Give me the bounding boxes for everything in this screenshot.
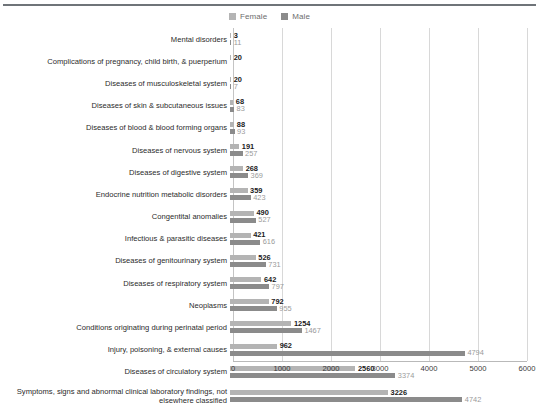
chart-row: Conditions originating during perinatal … xyxy=(0,316,539,338)
legend-swatch-male xyxy=(281,13,288,20)
x-tick-label: 0 xyxy=(231,364,235,373)
bar-rect-male[interactable] xyxy=(230,151,243,156)
bar-chart-plot: Mental disorders311Complications of preg… xyxy=(0,28,539,368)
bar-rect-female[interactable] xyxy=(230,321,291,326)
x-axis-line xyxy=(233,361,527,362)
bar-male[interactable]: 83 xyxy=(230,107,245,112)
legend-item-male: Male xyxy=(281,12,310,21)
chart-legend: Female Male xyxy=(0,12,539,21)
bar-female[interactable]: 792 xyxy=(230,299,284,304)
chart-row: Symptoms, signs and abnormal clinical la… xyxy=(0,383,539,407)
bar-male[interactable]: 93 xyxy=(230,129,245,134)
chart-rows: Mental disorders311Complications of preg… xyxy=(0,28,539,407)
bar-rect-female[interactable] xyxy=(230,344,277,349)
bar-rect-female[interactable] xyxy=(230,166,243,171)
row-bars: 6883 xyxy=(230,95,530,117)
bar-male[interactable]: 7 xyxy=(230,84,238,89)
category-label: Diseases of genitourinary system xyxy=(0,256,230,265)
bar-rect-male[interactable] xyxy=(230,306,277,311)
category-label: Diseases of blood & blood forming organs xyxy=(0,123,230,132)
bar-male[interactable]: 731 xyxy=(230,262,281,267)
bar-rect-female[interactable] xyxy=(230,188,248,193)
bar-rect-male[interactable] xyxy=(230,240,260,245)
bar-male[interactable]: 1467 xyxy=(230,328,321,333)
x-tick-label: 2000 xyxy=(323,364,340,373)
bar-male[interactable]: 616 xyxy=(230,240,275,245)
category-label: Complications of pregnancy, child birth,… xyxy=(0,57,230,66)
bar-rect-male[interactable] xyxy=(230,328,302,333)
bar-value-female: 962 xyxy=(277,342,292,349)
bar-value-male: 423 xyxy=(251,194,266,201)
category-label: Conditions originating during perinatal … xyxy=(0,323,230,332)
bar-rect-female[interactable] xyxy=(230,390,388,395)
row-bars: 20 xyxy=(230,50,530,72)
bar-value-male: 797 xyxy=(269,283,284,290)
chart-row: Diseases of musculoskeletal system207 xyxy=(0,72,539,94)
bar-value-male: 527 xyxy=(256,216,271,223)
row-bars: 642797 xyxy=(230,272,530,294)
bar-female[interactable]: 3226 xyxy=(230,390,407,395)
row-bars: 311 xyxy=(230,28,530,50)
row-bars: 268369 xyxy=(230,161,530,183)
bar-value-male: 1467 xyxy=(302,327,321,334)
category-label: Neoplasms xyxy=(0,301,230,310)
bar-male[interactable]: 257 xyxy=(230,151,257,156)
row-bars: 8893 xyxy=(230,117,530,139)
bar-female[interactable]: 526 xyxy=(230,255,271,260)
x-tick-label: 4000 xyxy=(421,364,438,373)
bar-male[interactable]: 423 xyxy=(230,195,266,200)
x-tick-label: 1000 xyxy=(274,364,291,373)
bar-female[interactable]: 20 xyxy=(230,55,242,60)
row-bars: 359423 xyxy=(230,183,530,205)
bar-rect-female[interactable] xyxy=(230,233,251,238)
bar-value-male: 257 xyxy=(243,150,258,157)
category-label: Congentital anomalies xyxy=(0,212,230,221)
chart-row: Infectious & parasitic diseases421616 xyxy=(0,228,539,250)
bar-male[interactable]: 369 xyxy=(230,173,263,178)
bar-female[interactable]: 642 xyxy=(230,277,276,282)
bar-male[interactable]: 955 xyxy=(230,306,292,311)
bar-value-male: 731 xyxy=(266,261,281,268)
category-label: Mental disorders xyxy=(0,35,230,44)
bar-female[interactable]: 962 xyxy=(230,344,292,349)
legend-item-female: Female xyxy=(229,12,267,21)
bar-rect-male[interactable] xyxy=(230,284,269,289)
bar-value-male: 83 xyxy=(234,105,245,112)
bar-rect-female[interactable] xyxy=(230,299,269,304)
x-tick-label: 6000 xyxy=(519,364,536,373)
chart-row: Complications of pregnancy, child birth,… xyxy=(0,50,539,72)
bar-male[interactable]: 797 xyxy=(230,284,284,289)
top-divider xyxy=(3,4,536,6)
bar-rect-female[interactable] xyxy=(230,255,256,260)
row-bars: 32264742 xyxy=(230,383,530,407)
bar-value-male: 955 xyxy=(277,305,292,312)
bar-female[interactable]: 421 xyxy=(230,233,265,238)
bar-male[interactable]: 4742 xyxy=(230,397,481,402)
category-label: Diseases of musculoskeletal system xyxy=(0,79,230,88)
category-label: Diseases of respiratory system xyxy=(0,279,230,288)
bar-rect-female[interactable] xyxy=(230,277,261,282)
bar-male[interactable]: 4794 xyxy=(230,351,484,356)
bar-male[interactable]: 11 xyxy=(230,40,241,45)
category-label: Diseases of skin & subcutaneous issues xyxy=(0,101,230,110)
bar-rect-male[interactable] xyxy=(230,218,256,223)
bar-rect-male[interactable] xyxy=(230,195,251,200)
bar-rect-male[interactable] xyxy=(230,173,248,178)
bar-rect-male[interactable] xyxy=(230,397,462,402)
chart-row: Neoplasms792955 xyxy=(0,294,539,316)
bar-male[interactable]: 527 xyxy=(230,218,271,223)
bar-rect-female[interactable] xyxy=(230,211,254,216)
bar-rect-male[interactable] xyxy=(230,351,465,356)
bar-female[interactable]: 1254 xyxy=(230,321,310,326)
bar-rect-male[interactable] xyxy=(230,262,266,267)
chart-row: Diseases of digestive system268369 xyxy=(0,161,539,183)
bar-rect-female[interactable] xyxy=(230,144,239,149)
row-bars: 490527 xyxy=(230,206,530,228)
bar-value-female: 20 xyxy=(231,54,242,61)
chart-row: Endocrine nutrition metabolic disorders3… xyxy=(0,183,539,205)
legend-swatch-female xyxy=(229,13,236,20)
x-axis-ticks: 0100020003000400050006000 xyxy=(0,364,539,378)
bar-female[interactable]: 88 xyxy=(230,122,245,127)
category-label: Diseases of nervous system xyxy=(0,146,230,155)
chart-row: Injury, poisoning, & external causes9624… xyxy=(0,339,539,361)
